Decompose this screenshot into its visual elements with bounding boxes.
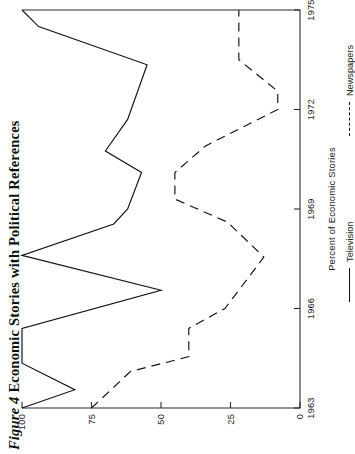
- y-tick-label: 75: [87, 414, 97, 448]
- y-tick-label: 0: [295, 414, 305, 448]
- x-tick-label: 1975: [306, 0, 316, 21]
- series-line-newspapers: [92, 10, 278, 408]
- legend-item-television: Television: [344, 222, 355, 302]
- y-tick-label: 50: [156, 414, 166, 448]
- y-tick-label: 25: [226, 414, 236, 448]
- y-axis-title: Percent of Economic Stories: [326, 147, 337, 271]
- x-tick-label: 1972: [306, 99, 316, 120]
- x-axis-ticks: [294, 10, 300, 408]
- data-series-group: [22, 10, 278, 408]
- legend-item-newspapers: Newspapers: [344, 45, 355, 136]
- series-line-television: [22, 10, 161, 408]
- legend-label: Newspapers: [345, 45, 355, 96]
- x-tick-label: 1966: [306, 298, 316, 319]
- x-tick-label: 1963: [306, 397, 316, 418]
- x-tick-label: 1969: [306, 198, 316, 219]
- y-tick-label: 100: [17, 414, 27, 448]
- legend-label: Television: [345, 222, 355, 262]
- legend-swatch-solid: [349, 268, 350, 302]
- axis-frame: [22, 10, 300, 408]
- y-axis-ticks: [22, 402, 300, 408]
- axes-group: [22, 10, 300, 408]
- legend-swatch-dashed: [349, 102, 350, 136]
